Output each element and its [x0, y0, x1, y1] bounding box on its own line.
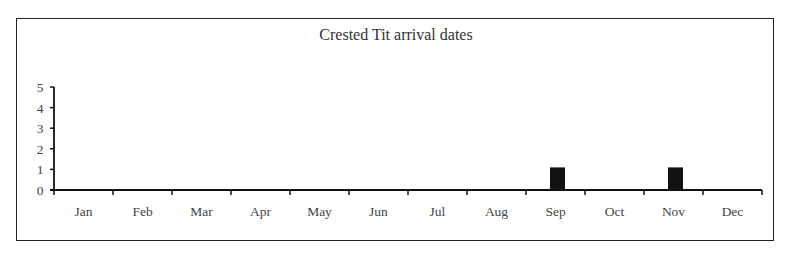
x-tick-label: Sep	[545, 204, 566, 219]
y-tick-label: 1	[37, 162, 44, 177]
x-tick-label: May	[307, 204, 332, 219]
x-tick-label: Jan	[75, 204, 93, 219]
x-tick-label: Mar	[190, 204, 213, 219]
x-tick-label: Apr	[250, 204, 271, 219]
bar-nov	[668, 167, 683, 190]
bar-chart-plot: 012345JanFebMarAprMayJunJulAugSepOctNovD…	[0, 0, 792, 256]
x-tick-label: Jul	[430, 204, 446, 219]
x-tick-label: Nov	[662, 204, 685, 219]
y-tick-label: 2	[37, 142, 44, 157]
x-tick-label: Jun	[369, 204, 388, 219]
y-tick-label: 0	[37, 183, 44, 198]
bar-sep	[550, 167, 565, 190]
x-tick-label: Aug	[485, 204, 508, 219]
y-tick-label: 5	[37, 80, 44, 95]
y-tick-label: 4	[37, 101, 44, 116]
x-tick-label: Feb	[132, 204, 153, 219]
x-tick-label: Dec	[722, 204, 744, 219]
x-tick-label: Oct	[605, 204, 625, 219]
y-tick-label: 3	[37, 121, 44, 136]
